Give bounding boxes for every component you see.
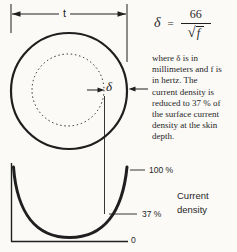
- skin-depth-figure: t δ δ = 66 √ f where δ is in millimeters…: [0, 0, 237, 252]
- radicand: f: [196, 26, 204, 39]
- thickness-label: t: [59, 7, 70, 20]
- note-line: depth.: [152, 131, 237, 142]
- t-arrowhead-right-icon: [118, 11, 127, 16]
- y-axis-zero-label: 0: [131, 235, 136, 245]
- note-line: in hertz. The: [152, 75, 237, 86]
- note-line: millimeters and f is: [152, 64, 237, 75]
- current-density-label-line1: Current: [177, 189, 209, 203]
- current-density-label: Current density: [177, 189, 209, 216]
- current-density-curve: [14, 167, 128, 238]
- note-line: reduced to 37 % of: [152, 98, 237, 109]
- fraction-numerator: 66: [181, 7, 211, 24]
- skin-depth-formula: δ = 66 √ f: [154, 7, 211, 39]
- note-line: current density is: [152, 87, 237, 98]
- fraction-denominator: √ f: [187, 24, 204, 39]
- formula-equals: =: [168, 17, 174, 29]
- formula-fraction: 66 √ f: [181, 7, 211, 39]
- note-text: where δ is in millimeters and f is in he…: [152, 53, 237, 143]
- formula-lhs: δ: [154, 15, 161, 31]
- y-axis-37-percent-label: 37 %: [142, 209, 161, 219]
- note-line: where δ is in: [152, 53, 237, 64]
- delta-arrowhead-outer-icon: [129, 87, 136, 92]
- note-line: density at the skin: [152, 120, 237, 131]
- y-axis-100-percent-label: 100 %: [149, 165, 173, 175]
- radical-sign-icon: √: [187, 25, 195, 39]
- delta-arrowhead-inner-icon: [98, 88, 105, 93]
- current-density-label-line2: density: [177, 203, 209, 217]
- note-line: the surface current: [152, 109, 237, 120]
- t-arrowhead-left-icon: [12, 11, 21, 16]
- skin-depth-label: δ: [106, 79, 112, 94]
